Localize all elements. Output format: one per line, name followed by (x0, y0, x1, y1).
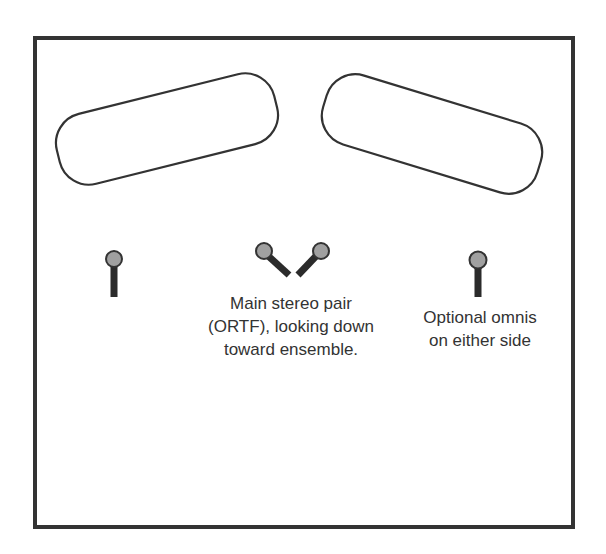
right-omni-mic-icon (470, 252, 487, 298)
main-stereo-pair-label: Main stereo pair (ORTF), looking down to… (191, 292, 391, 361)
omnis-line-1: Optional omnis (412, 306, 548, 329)
left-ensemble-area (50, 67, 285, 191)
omnis-line-2: on either side (412, 329, 548, 352)
left-omni-mic-icon (106, 251, 122, 297)
optional-omnis-label: Optional omnis on either side (412, 306, 548, 352)
ortf-right-mic-icon (298, 243, 329, 275)
main-pair-line-3: toward ensemble. (191, 338, 391, 361)
diagram-canvas (0, 0, 606, 554)
ortf-left-mic-icon (256, 243, 289, 275)
right-ensemble-area (314, 67, 549, 201)
mic-placement-diagram: Main stereo pair (ORTF), looking down to… (0, 0, 606, 554)
main-pair-line-1: Main stereo pair (191, 292, 391, 315)
main-pair-line-2: (ORTF), looking down (191, 315, 391, 338)
